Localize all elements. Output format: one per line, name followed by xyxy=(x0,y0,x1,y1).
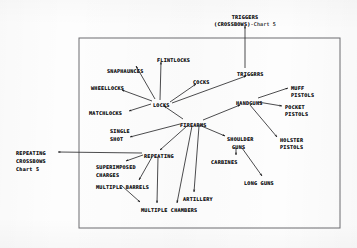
node-label-wheellocks: WHEELLOCKS xyxy=(91,85,124,91)
node-label-muff_pistols_1: MUFF xyxy=(291,85,304,91)
node-label-repeating_cross_2: CROSSBOWS xyxy=(16,158,46,164)
node-label-repeating_cross_1: REPEATING xyxy=(16,150,46,156)
node-label-holster_pistols_1: HOLSTER xyxy=(280,137,303,143)
node-label-muff_pistols_2: PISTOLS xyxy=(291,92,314,98)
node-label-superimposed_1: SUPERIMPOSED xyxy=(96,164,136,170)
node-label-repeating: REPEATING xyxy=(144,153,174,159)
edge-repeating-to-repeating_crossbows xyxy=(58,152,142,153)
node-label-single_shot_1: SINGLE xyxy=(110,128,130,134)
node-label-triggers_crossbows_sub: (CROSSBOWS)-Chart 5 xyxy=(214,21,276,27)
node-label-multiple_chambers: MULTIPLE CHAMBERS xyxy=(141,207,197,213)
edge-locks-to-wheellocks xyxy=(122,90,152,101)
node-label-locks: LOCKS xyxy=(153,102,170,108)
edge-locks-to-matchlocks xyxy=(129,104,151,111)
node-label-pocket_pistols_2: PISTOLS xyxy=(285,111,308,117)
node-label-snaphaunces: SNAPHAUNCES xyxy=(107,68,143,74)
node-label-holster_pistols_2: PISTOLS xyxy=(280,144,303,150)
edge-handguns-to-holster_pistols xyxy=(250,105,277,137)
edge-firearms-to-single_shot xyxy=(130,124,180,137)
node-label-pocket_pistols_1: POCKET xyxy=(285,104,305,110)
node-label-long_guns: LONG GUNS xyxy=(244,180,274,186)
node-label-shoulder_guns_1: SHOULDER xyxy=(227,136,254,142)
node-label-cocks: COCKS xyxy=(193,79,210,85)
edge-repeating-to-multiple_chambers xyxy=(157,157,158,203)
node-label-multiple_barrels: MULTIPLE BARRELS xyxy=(96,184,149,190)
edge-firearms-to-handguns xyxy=(203,105,240,120)
node-label-flintlocks: FLINTLOCKS xyxy=(157,57,190,63)
edge-shoulder_guns-to-long_guns xyxy=(242,148,262,176)
edge-firearms-to-repeating xyxy=(160,126,187,150)
edge-locks-to-flintlocks xyxy=(160,62,161,100)
edge-firearms-to-multiple_chambers xyxy=(177,126,192,203)
edge-handguns-to-muff_pistols xyxy=(258,88,288,98)
diagram-page: TRIGGERS(CROSSBOWS)-Chart 5FLINTLOCKSSNA… xyxy=(0,0,357,248)
node-label-shoulder_guns_2: GUNS xyxy=(232,144,245,150)
edge-repeating-to-multiple_barrels xyxy=(139,157,152,180)
node-label-repeating_cross_3: Chart 5 xyxy=(16,166,39,172)
node-label-artillery: ARTILLERY xyxy=(183,196,213,202)
node-label-triggers_crossbows: TRIGGERS xyxy=(232,14,259,20)
edge-repeating-to-superimposed xyxy=(126,155,143,161)
node-suffix-triggers_crossbows_sub: -Chart 5 xyxy=(251,21,276,27)
node-label-triggers: TRIGGRRS xyxy=(237,71,264,77)
node-label-firearms: FIREARMS xyxy=(180,122,207,128)
node-label-superimposed_2: CHARGES xyxy=(96,172,119,178)
node-label-single_shot_2: SHOT xyxy=(110,136,123,142)
node-label-matchlocks: MATCHLOCKS xyxy=(89,110,122,116)
node-label-carbines: CARBINES xyxy=(211,159,238,165)
edge-firearms-to-artillery xyxy=(194,126,199,192)
node-label-handguns: HANDGUNS xyxy=(236,100,263,106)
